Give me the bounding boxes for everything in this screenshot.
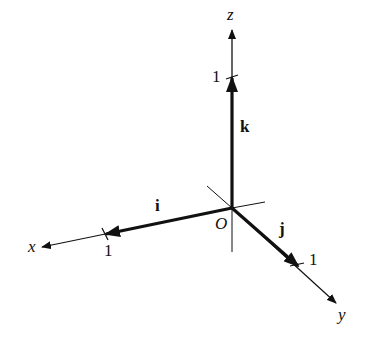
x-unit-label: 1 xyxy=(104,242,113,259)
z-axis-label: z xyxy=(227,6,234,23)
vector-j-label: j xyxy=(279,220,285,237)
x-axis-label: x xyxy=(28,238,36,255)
vector-i-label: i xyxy=(155,197,160,214)
y-unit-label: 1 xyxy=(309,251,318,268)
vector-i xyxy=(106,208,232,234)
x-axis-negative xyxy=(232,202,265,208)
y-axis-label: y xyxy=(338,306,346,323)
coordinate-diagram: z x y 1 1 1 k i j O xyxy=(0,0,371,340)
axes-drawing xyxy=(0,0,371,340)
vector-j xyxy=(232,208,298,266)
z-unit-label: 1 xyxy=(212,68,221,85)
origin-label: O xyxy=(215,215,227,232)
vector-k-label: k xyxy=(240,118,249,135)
y-axis-negative xyxy=(207,186,232,208)
